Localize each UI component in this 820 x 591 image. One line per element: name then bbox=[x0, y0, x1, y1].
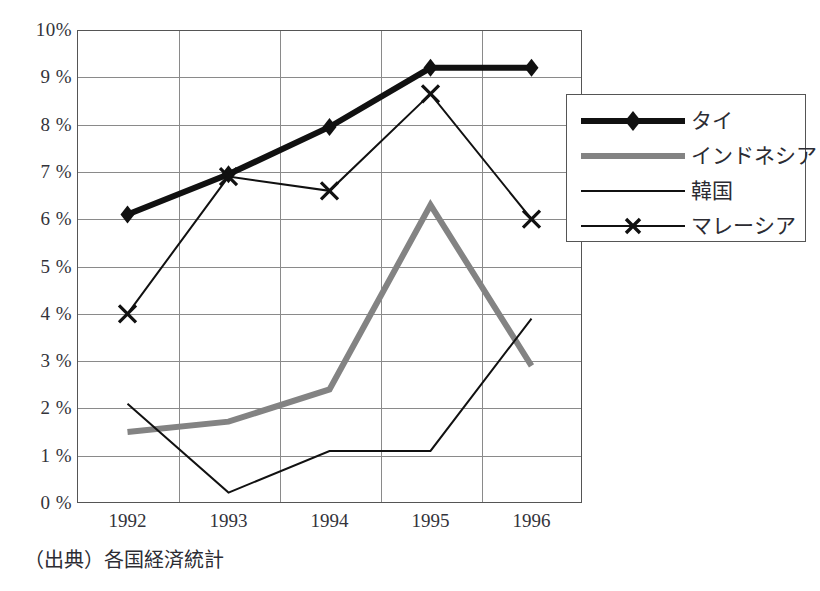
y-tick-label: 3 % bbox=[6, 351, 72, 370]
legend-label: タイ bbox=[691, 110, 733, 132]
gridline bbox=[78, 125, 581, 126]
y-tick-label: 10% bbox=[6, 20, 72, 39]
legend-item[interactable]: インドネシア bbox=[567, 138, 805, 173]
gridline bbox=[78, 77, 581, 78]
y-axis: 10%9 %8 %7 %6 %5 %4 %3 %2 %1 %0 % bbox=[0, 0, 72, 591]
legend-label: 韓国 bbox=[691, 180, 733, 202]
legend-swatch bbox=[581, 143, 685, 169]
y-tick-label: 7 % bbox=[6, 162, 72, 181]
legend-item[interactable]: マレーシア bbox=[567, 208, 805, 243]
x-tick-divider bbox=[179, 31, 180, 502]
y-tick-label: 1 % bbox=[6, 446, 72, 465]
x-tick-divider bbox=[381, 31, 382, 502]
y-tick-label: 8 % bbox=[6, 115, 72, 134]
legend-swatch bbox=[581, 178, 685, 204]
legend-line bbox=[581, 190, 685, 192]
source-caption: （出典）各国経済統計 bbox=[24, 548, 224, 572]
gridline bbox=[78, 361, 581, 362]
gridline bbox=[78, 456, 581, 457]
y-tick-label: 6 % bbox=[6, 209, 72, 228]
legend-swatch bbox=[581, 108, 685, 134]
legend-label: マレーシア bbox=[691, 215, 796, 237]
y-tick-label: 5 % bbox=[6, 257, 72, 276]
legend-marker-diamond bbox=[625, 111, 641, 121]
gridline bbox=[78, 219, 581, 220]
legend-marker-x bbox=[624, 217, 642, 235]
legend-item[interactable]: タイ bbox=[567, 103, 805, 138]
legend: タイインドネシア韓国マレーシア bbox=[566, 94, 806, 242]
y-tick-label: 9 % bbox=[6, 67, 72, 86]
x-tick-divider bbox=[280, 31, 281, 502]
gridline bbox=[78, 314, 581, 315]
plot-area bbox=[77, 30, 582, 503]
legend-marker-diamond bbox=[625, 121, 641, 131]
line-chart: 10%9 %8 %7 %6 %5 %4 %3 %2 %1 %0 % 199219… bbox=[0, 0, 820, 591]
legend-swatch bbox=[581, 213, 685, 239]
legend-item[interactable]: 韓国 bbox=[567, 173, 805, 208]
legend-line bbox=[581, 153, 685, 159]
gridline bbox=[78, 267, 581, 268]
gridline bbox=[78, 172, 581, 173]
gridline bbox=[78, 408, 581, 409]
y-tick-label: 0 % bbox=[6, 493, 72, 512]
legend-label: インドネシア bbox=[691, 145, 817, 167]
x-tick-label: 1996 bbox=[472, 510, 592, 532]
x-tick-divider bbox=[482, 31, 483, 502]
y-tick-label: 4 % bbox=[6, 304, 72, 323]
y-tick-label: 2 % bbox=[6, 398, 72, 417]
